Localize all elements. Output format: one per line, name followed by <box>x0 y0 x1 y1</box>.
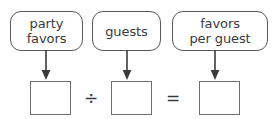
diagram-canvas: party favors guests favors per guest ÷ = <box>0 0 276 119</box>
label-text-party-favors: party favors <box>27 16 67 46</box>
label-box-favors-per-guest: favors per guest <box>172 11 268 51</box>
input-box-divisor[interactable] <box>111 81 152 115</box>
label-box-party-favors: party favors <box>10 11 83 51</box>
input-box-dividend[interactable] <box>30 81 71 115</box>
divide-operator-icon: ÷ <box>76 88 106 108</box>
down-arrow-icon-dividend <box>38 50 54 81</box>
input-box-quotient[interactable] <box>199 81 240 115</box>
equals-operator-icon: = <box>158 88 188 108</box>
label-text-guests: guests <box>105 24 148 39</box>
label-box-guests: guests <box>92 11 161 51</box>
down-arrow-icon-quotient <box>207 50 223 81</box>
down-arrow-icon-divisor <box>119 50 135 81</box>
label-text-favors-per-guest: favors per guest <box>189 16 250 46</box>
